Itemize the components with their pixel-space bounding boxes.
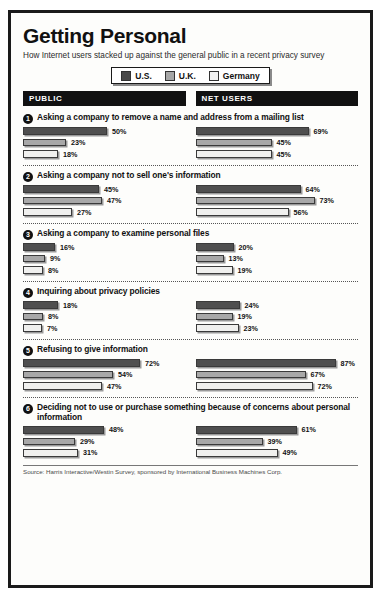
bar-row: 23% bbox=[196, 324, 359, 333]
bar-germany bbox=[23, 449, 78, 457]
bar-germany bbox=[23, 382, 102, 390]
legend-label-uk: U.K. bbox=[179, 71, 196, 81]
bar-germany bbox=[196, 150, 272, 158]
bar-germany bbox=[196, 382, 313, 390]
chart-item: 5Refusing to give information72%54%47%87… bbox=[23, 342, 358, 393]
bar-row: 45% bbox=[23, 185, 186, 194]
bar-germany bbox=[196, 449, 278, 457]
item-title: Asking a company to examine personal fil… bbox=[37, 229, 209, 239]
item-header: 6Deciding not to use or purchase somethi… bbox=[23, 403, 358, 422]
bar-row: 29% bbox=[23, 437, 186, 446]
bar-value-label: 56% bbox=[294, 208, 308, 217]
bar-uk bbox=[196, 438, 263, 446]
bar-value-label: 47% bbox=[107, 382, 121, 391]
bar-value-label: 64% bbox=[306, 185, 320, 194]
bar-us bbox=[196, 243, 234, 251]
bar-us bbox=[23, 426, 104, 434]
net-users-column: 61%39%49% bbox=[196, 425, 359, 460]
bar-row: 7% bbox=[23, 324, 186, 333]
public-column: 18%8%7% bbox=[23, 301, 186, 336]
item-separator bbox=[23, 281, 358, 282]
bar-value-label: 24% bbox=[245, 301, 259, 310]
bar-uk bbox=[23, 313, 43, 321]
bar-uk bbox=[196, 139, 272, 147]
bar-value-label: 19% bbox=[238, 312, 252, 321]
bar-row: 54% bbox=[23, 370, 186, 379]
bar-row: 67% bbox=[196, 370, 359, 379]
bar-value-label: 72% bbox=[318, 382, 332, 391]
bar-value-label: 18% bbox=[63, 301, 77, 310]
bar-row: 31% bbox=[23, 448, 186, 457]
bar-row: 69% bbox=[196, 127, 359, 136]
bar-row: 39% bbox=[196, 437, 359, 446]
item-columns: 48%29%31%61%39%49% bbox=[23, 425, 358, 460]
bar-uk bbox=[196, 197, 315, 205]
bar-value-label: 31% bbox=[83, 448, 97, 457]
bar-row: 45% bbox=[196, 138, 359, 147]
bar-row: 56% bbox=[196, 208, 359, 217]
chart-item: 6Deciding not to use or purchase somethi… bbox=[23, 400, 358, 460]
chart-item: 3Asking a company to examine personal fi… bbox=[23, 226, 358, 277]
bar-row: 72% bbox=[23, 359, 186, 368]
public-column: 50%23%18% bbox=[23, 127, 186, 162]
bar-us bbox=[23, 359, 140, 367]
bar-row: 9% bbox=[23, 254, 186, 263]
bar-row: 8% bbox=[23, 312, 186, 321]
bar-germany bbox=[23, 208, 72, 216]
chart-item: 2Asking a company not to sell one's info… bbox=[23, 168, 358, 219]
legend-label-germany: Germany bbox=[223, 71, 260, 81]
bar-value-label: 8% bbox=[48, 266, 58, 275]
item-columns: 72%54%47%87%67%72% bbox=[23, 359, 358, 394]
bar-value-label: 16% bbox=[60, 243, 74, 252]
bar-us bbox=[23, 243, 55, 251]
source-divider bbox=[23, 465, 358, 466]
bar-row: 47% bbox=[23, 382, 186, 391]
legend-swatch-germany-icon bbox=[209, 71, 219, 81]
bar-row: 23% bbox=[23, 138, 186, 147]
bar-value-label: 39% bbox=[268, 437, 282, 446]
bar-value-label: 8% bbox=[48, 312, 58, 321]
legend-item-uk: U.K. bbox=[165, 71, 196, 81]
bar-uk bbox=[196, 313, 233, 321]
bar-germany bbox=[23, 266, 43, 274]
bar-value-label: 45% bbox=[277, 138, 291, 147]
bar-uk bbox=[23, 197, 102, 205]
bar-row: 8% bbox=[23, 266, 186, 275]
bar-value-label: 13% bbox=[229, 254, 243, 263]
bar-value-label: 54% bbox=[118, 370, 132, 379]
bar-value-label: 7% bbox=[47, 324, 57, 333]
item-number-badge: 3 bbox=[23, 230, 33, 240]
item-number-badge: 4 bbox=[23, 288, 33, 298]
bar-row: 61% bbox=[196, 425, 359, 434]
item-title: Asking a company to remove a name and ad… bbox=[37, 113, 304, 123]
bar-row: 48% bbox=[23, 425, 186, 434]
item-title: Deciding not to use or purchase somethin… bbox=[37, 403, 358, 422]
bar-uk bbox=[196, 255, 224, 263]
net-users-column: 87%67%72% bbox=[196, 359, 359, 394]
net-users-column: 24%19%23% bbox=[196, 301, 359, 336]
bar-germany bbox=[196, 266, 233, 274]
item-title: Inquiring about privacy policies bbox=[37, 287, 160, 297]
bar-row: 73% bbox=[196, 196, 359, 205]
page-title: Getting Personal bbox=[23, 25, 358, 46]
item-number-badge: 5 bbox=[23, 346, 33, 356]
bar-value-label: 45% bbox=[277, 150, 291, 159]
bar-us bbox=[196, 426, 297, 434]
column-headers: PUBLIC NET USERS bbox=[23, 91, 358, 106]
bar-uk bbox=[23, 255, 45, 263]
bar-germany bbox=[196, 324, 239, 332]
bar-value-label: 23% bbox=[71, 138, 85, 147]
item-header: 5Refusing to give information bbox=[23, 345, 358, 356]
bar-us bbox=[196, 185, 301, 193]
bar-row: 20% bbox=[196, 243, 359, 252]
bar-value-label: 29% bbox=[80, 437, 94, 446]
bar-value-label: 45% bbox=[104, 185, 118, 194]
bar-row: 19% bbox=[196, 312, 359, 321]
item-number-badge: 6 bbox=[23, 404, 33, 414]
item-header: 4Inquiring about privacy policies bbox=[23, 287, 358, 298]
column-header-net-users: NET USERS bbox=[196, 91, 359, 106]
bar-row: 64% bbox=[196, 185, 359, 194]
item-title: Refusing to give information bbox=[37, 345, 148, 355]
column-header-public: PUBLIC bbox=[23, 91, 186, 106]
bar-value-label: 61% bbox=[302, 425, 316, 434]
